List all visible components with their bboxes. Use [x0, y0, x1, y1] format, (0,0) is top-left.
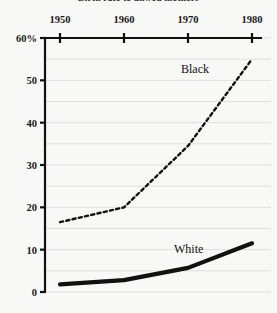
y-tick-label-60pct: 60%: [0, 33, 37, 44]
x-tick-label-1950: 1950: [50, 14, 71, 25]
series-group: [60, 59, 252, 284]
y-tick-label-30: 30: [0, 160, 37, 171]
gridlines-group: [45, 38, 271, 292]
chart-canvas: [0, 0, 277, 313]
series-label-white: White: [174, 242, 203, 257]
y-tick-label-20: 20: [0, 202, 37, 213]
x-tick-label-1980: 1980: [242, 14, 263, 25]
x-tick-label-1970: 1970: [178, 14, 199, 25]
chart-figure: Birth rate to unwed mothers 195019601970…: [0, 0, 277, 313]
y-tick-label-0: 0: [0, 287, 37, 298]
y-tick-label-10: 10: [0, 244, 37, 255]
x-tick-label-1960: 1960: [114, 14, 135, 25]
y-tick-label-40: 40: [0, 117, 37, 128]
y-tick-label-50: 50: [0, 75, 37, 86]
series-label-black: Black: [181, 62, 209, 77]
